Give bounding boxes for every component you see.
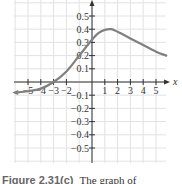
- y-tick-label: 0.1: [77, 63, 90, 74]
- x-tick-label: 4: [141, 85, 146, 96]
- x-axis-label: x: [172, 76, 178, 87]
- x-tick-label: −3: [48, 85, 59, 96]
- caption-label: Figure 2.31(c): [2, 174, 74, 184]
- y-tick-label: −0.1: [71, 90, 89, 101]
- y-tick-label: −0.4: [71, 129, 89, 140]
- figure-caption: Figure 2.31(c)The graph of: [2, 170, 136, 184]
- y-tick-label: −0.2: [71, 103, 89, 114]
- y-tick-label: 0.4: [77, 24, 90, 35]
- chart: x−5−4−3−2123450.50.40.30.20.1−0.1−0.2−0.…: [0, 0, 182, 170]
- x-tick-label: 3: [128, 85, 133, 96]
- y-tick-label: 0.5: [77, 11, 90, 22]
- x-tick-label: 1: [102, 85, 107, 96]
- x-axis-arrow-icon: [164, 80, 170, 85]
- caption-text: The graph of: [80, 174, 137, 184]
- y-tick-label: −0.5: [71, 143, 89, 154]
- x-tick-label: 2: [115, 85, 120, 96]
- x-tick-label: 5: [154, 85, 159, 96]
- y-tick-label: −0.3: [71, 116, 89, 127]
